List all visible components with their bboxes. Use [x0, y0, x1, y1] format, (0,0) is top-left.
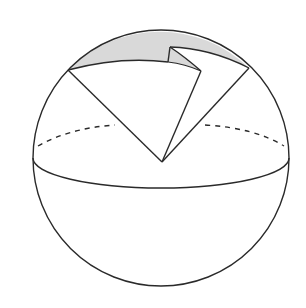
- sphere-diagram: [0, 0, 306, 308]
- sector-edge-right: [162, 68, 249, 162]
- equator-back-dashed: [38, 125, 115, 146]
- sector-edge-left: [68, 70, 162, 162]
- equator-front: [33, 158, 289, 188]
- sector-edge-middle: [162, 71, 201, 162]
- equator-back-dashed-right: [205, 125, 284, 146]
